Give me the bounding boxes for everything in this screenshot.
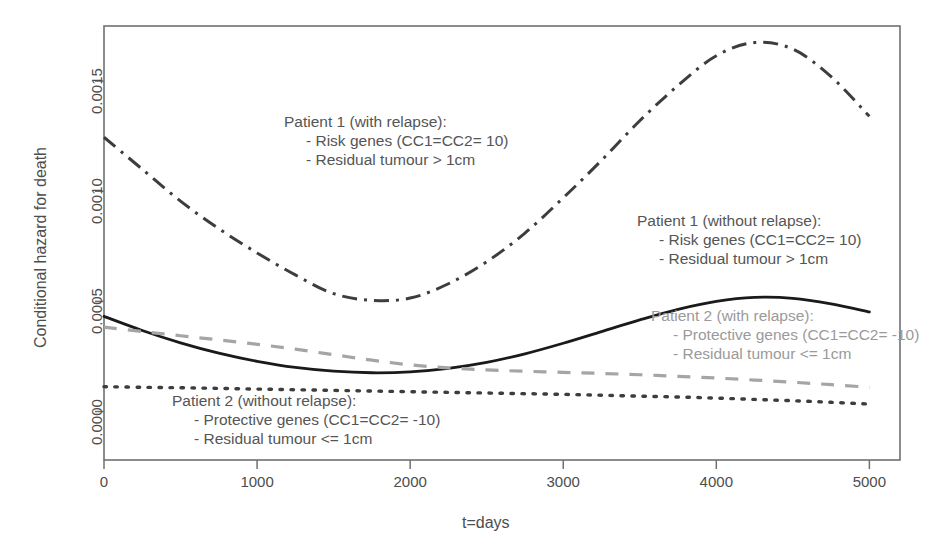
annotation-patient2-with-relapse: Patient 2 (with relapse):- Protective ge…	[651, 306, 919, 363]
annotation-line-1: Patient 1 (with relapse):	[284, 112, 508, 131]
annotation-line-1: Patient 2 (without relapse):	[172, 391, 440, 410]
y-tick-label: 0.0015	[88, 68, 105, 114]
annotation-line-2: - Protective genes (CC1=CC2= -10)	[651, 325, 919, 344]
x-tick-label: 1000	[217, 473, 297, 490]
y-tick-label: 0.0005	[88, 288, 105, 334]
annotation-line-2: - Protective genes (CC1=CC2= -10)	[172, 410, 440, 429]
annotation-line-1: Patient 1 (without relapse):	[637, 211, 861, 230]
y-axis-title: Conditional hazard for death	[32, 147, 50, 348]
annotation-line-3: - Residual tumour > 1cm	[637, 249, 861, 268]
annotation-patient2-without-relapse: Patient 2 (without relapse):- Protective…	[172, 391, 440, 448]
annotation-line-3: - Residual tumour > 1cm	[284, 150, 508, 169]
hazard-chart-figure: 010002000300040005000 0.00000.00050.0010…	[0, 0, 935, 555]
annotation-line-3: - Residual tumour <= 1cm	[651, 344, 919, 363]
x-tick-label: 4000	[676, 473, 756, 490]
y-tick-label: 0.0010	[88, 178, 105, 224]
annotation-patient1-without-relapse: Patient 1 (without relapse):- Risk genes…	[637, 211, 861, 268]
annotation-line-2: - Risk genes (CC1=CC2= 10)	[637, 230, 861, 249]
x-tick-label: 3000	[523, 473, 603, 490]
annotation-line-2: - Risk genes (CC1=CC2= 10)	[284, 131, 508, 150]
x-tick-label: 0	[64, 473, 144, 490]
x-axis-title: t=days	[462, 514, 510, 532]
plot-canvas	[0, 0, 935, 555]
x-tick-label: 5000	[829, 473, 909, 490]
annotation-line-3: - Residual tumour <= 1cm	[172, 429, 440, 448]
x-tick-label: 2000	[370, 473, 450, 490]
annotation-patient1-with-relapse: Patient 1 (with relapse):- Risk genes (C…	[284, 112, 508, 169]
y-tick-label: 0.0000	[88, 399, 105, 445]
annotation-line-1: Patient 2 (with relapse):	[651, 306, 919, 325]
